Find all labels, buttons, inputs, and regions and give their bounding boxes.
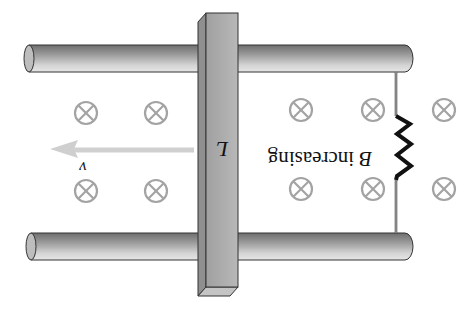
field-into-page-icon xyxy=(433,99,455,121)
circuit-diagram: L v B increasing xyxy=(0,0,473,313)
diagram-canvas: L v B increasing xyxy=(0,0,473,313)
field-into-page-icon xyxy=(75,102,97,124)
rail-end-ellipse xyxy=(24,45,34,72)
field-label: B increasing xyxy=(267,147,372,171)
field-b-label: B xyxy=(359,147,372,171)
resistor xyxy=(396,72,411,233)
field-into-page-icon xyxy=(362,178,384,200)
velocity-label: v xyxy=(79,158,87,177)
velocity-arrow xyxy=(50,140,194,158)
field-increasing-label: increasing xyxy=(267,147,354,171)
svg-text:B increasing: B increasing xyxy=(267,147,372,171)
field-into-page-icon xyxy=(290,178,312,200)
resistor-zigzag xyxy=(396,116,411,180)
field-into-page-icon xyxy=(290,99,312,121)
field-into-page-icon xyxy=(75,180,97,202)
field-into-page-icon xyxy=(362,99,384,121)
field-into-page-icon xyxy=(145,102,167,124)
rail-end-ellipse xyxy=(26,233,36,260)
field-into-page-icon xyxy=(433,178,455,200)
bar-length-label: L xyxy=(216,137,229,162)
field-into-page-icon xyxy=(145,180,167,202)
